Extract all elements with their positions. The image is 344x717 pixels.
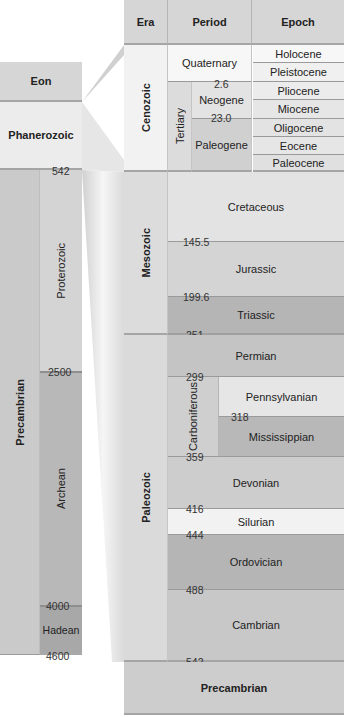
period-cretaceous-label: Cretaceous — [228, 201, 284, 213]
epoch-paleocene: Paleocene — [253, 155, 344, 172]
period-devonian: Devonian — [168, 457, 344, 509]
epoch-pleistocene-label: Pleistocene — [270, 66, 327, 78]
period-cambrian: Cambrian — [168, 590, 344, 662]
era-precambrian: Precambrian — [124, 662, 344, 715]
epoch-holocene-label: Holocene — [275, 48, 321, 60]
boundary-145-5: 145.5 — [183, 237, 209, 248]
subeon-proterozoic: Proterozoic — [40, 170, 82, 372]
epoch-holocene: Holocene — [253, 45, 344, 63]
subeon-archean: Archean — [40, 372, 82, 605]
epoch-pliocene-label: Pliocene — [277, 85, 319, 97]
eon-header: Eon — [0, 62, 82, 102]
era-paleozoic: Paleozoic — [124, 335, 168, 662]
epoch-oligocene: Oligocene — [253, 119, 344, 137]
epoch-paleocene-label: Paleocene — [273, 157, 325, 169]
boundary-2-6: 2.6 — [214, 79, 229, 90]
epoch-eocene: Eocene — [253, 137, 344, 155]
eon-phanerozoic-label: Phanerozoic — [8, 129, 73, 141]
period-ordovician-label: Ordovician — [230, 556, 283, 568]
boundary-299: 299 — [186, 372, 204, 383]
subeon-archean-label: Archean — [55, 468, 67, 509]
period-quaternary-label: Quaternary — [182, 57, 237, 69]
period-ordovician: Ordovician — [168, 535, 344, 590]
period-silurian-label: Silurian — [238, 516, 275, 528]
period-carboniferous-label: Carboniferous — [187, 382, 199, 451]
epoch-header-label: Epoch — [281, 16, 315, 28]
period-triassic-label: Triassic — [237, 309, 274, 321]
eon-phanerozoic: Phanerozoic — [0, 102, 82, 170]
era-cenozoic-label: Cenozoic — [140, 83, 152, 132]
boundary-2500: 2500 — [48, 367, 71, 378]
eon-precambrian: Precambrian — [0, 170, 40, 655]
subperiod-mississippian-label: Mississippian — [249, 431, 314, 443]
era-header: Era — [124, 0, 168, 45]
period-quaternary: Quaternary — [168, 45, 252, 82]
era-mesozoic: Mesozoic — [124, 172, 168, 335]
epoch-oligocene-label: Oligocene — [274, 122, 324, 134]
period-devonian-label: Devonian — [233, 477, 279, 489]
boundary-318: 318 — [231, 412, 249, 423]
period-tertiary: Tertiary — [168, 82, 192, 172]
subeon-hadean: Hadean — [40, 605, 82, 655]
boundary-488: 488 — [186, 585, 204, 596]
epoch-miocene: Miocene — [253, 100, 344, 119]
boundary-23-0: 23.0 — [211, 113, 231, 124]
subperiod-paleogene: Paleogene — [192, 119, 252, 172]
era-mesozoic-label: Mesozoic — [140, 228, 152, 278]
period-header: Period — [168, 0, 252, 45]
subperiod-neogene-label: Neogene — [199, 94, 244, 106]
period-cretaceous: Cretaceous — [168, 172, 344, 242]
period-tertiary-label: Tertiary — [174, 108, 186, 144]
epoch-eocene-label: Eocene — [280, 140, 317, 152]
period-permian-label: Permian — [236, 350, 277, 362]
epoch-miocene-label: Miocene — [278, 103, 320, 115]
boundary-4600: 4600 — [46, 651, 69, 662]
period-cambrian-label: Cambrian — [232, 619, 280, 631]
era-paleozoic-label: Paleozoic — [140, 472, 152, 523]
subperiod-paleogene-label: Paleogene — [195, 139, 248, 151]
eon-precambrian-label: Precambrian — [14, 379, 26, 446]
epoch-pleistocene: Pleistocene — [253, 63, 344, 82]
period-carboniferous: Carboniferous — [168, 377, 219, 457]
subeon-hadean-label: Hadean — [43, 624, 80, 636]
era-precambrian-label: Precambrian — [201, 682, 268, 694]
boundary-4000: 4000 — [46, 601, 69, 612]
epoch-pliocene: Pliocene — [253, 82, 344, 100]
era-header-label: Era — [137, 16, 155, 28]
eon-header-label: Eon — [31, 75, 52, 87]
era-cenozoic: Cenozoic — [124, 45, 168, 172]
boundary-359: 359 — [186, 452, 204, 463]
boundary-444: 444 — [186, 530, 204, 541]
boundary-542-left: 542 — [52, 166, 70, 177]
boundary-199-6: 199.6 — [183, 292, 209, 303]
period-jurassic: Jurassic — [168, 242, 344, 297]
epoch-header: Epoch — [252, 0, 344, 45]
subeon-proterozoic-label: Proterozoic — [55, 243, 67, 299]
period-header-label: Period — [192, 16, 226, 28]
subperiod-mississippian: Mississippian — [219, 417, 344, 457]
boundary-416: 416 — [186, 504, 204, 515]
period-jurassic-label: Jurassic — [236, 263, 276, 275]
subperiod-pennsylvanian-label: Pennsylvanian — [246, 391, 318, 403]
